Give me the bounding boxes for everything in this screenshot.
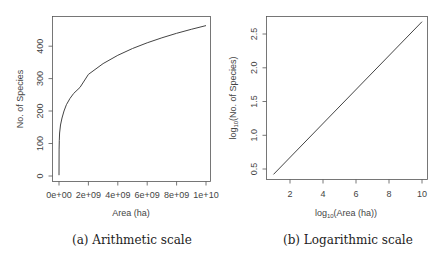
- x-tick-labels: 0e+00 2e+09 4e+09 6e+09 8e+09 1e+10: [46, 190, 218, 200]
- figure: 0 100 200 300 400 0e+00 2e+09 4e+09 6e+0…: [0, 0, 442, 263]
- x-tick-label: 10: [417, 189, 427, 199]
- y-tick-label: 300: [35, 71, 45, 86]
- y-axis-label: log10(No. of Species): [228, 56, 239, 139]
- x-axis: [59, 182, 206, 186]
- caption-arithmetic: (a) Arithmetic scale: [72, 233, 192, 247]
- y-tick-label: 2.5: [249, 28, 259, 41]
- y-tick-label: 2.0: [249, 62, 259, 75]
- x-tick-label: 8e+09: [164, 190, 189, 200]
- x-tick-label: 6: [353, 189, 358, 199]
- x-tick-label: 1e+10: [193, 190, 218, 200]
- y-tick-label: 0.5: [249, 163, 259, 176]
- y-tick-labels: 0.5 1.0 1.5 2.0 2.5: [249, 28, 259, 176]
- logarithmic-chart: 0.5 1.0 1.5 2.0 2.5 2 4 6 8 10 log10(Are…: [228, 17, 428, 220]
- data-line: [59, 26, 206, 176]
- x-tick-label: 2e+09: [76, 190, 101, 200]
- x-tick-labels: 2 4 6 8 10: [287, 189, 427, 199]
- x-tick-label: 4: [320, 189, 325, 199]
- x-axis-label: log10(Area (ha)): [315, 208, 377, 219]
- y-tick-label: 400: [35, 39, 45, 54]
- y-tick-labels: 0 100 200 300 400: [35, 39, 45, 179]
- y-axis: [49, 46, 53, 176]
- x-tick-label: 0e+00: [46, 190, 71, 200]
- x-tick-label: 4e+09: [105, 190, 130, 200]
- x-tick-label: 6e+09: [135, 190, 160, 200]
- y-axis-label: No. of Species: [15, 69, 25, 128]
- x-axis: [290, 180, 422, 184]
- y-tick-label: 1.5: [249, 95, 259, 108]
- caption-logarithmic: (b) Logarithmic scale: [283, 233, 413, 247]
- y-tick-label: 200: [35, 103, 45, 118]
- arithmetic-chart: 0 100 200 300 400 0e+00 2e+09 4e+09 6e+0…: [15, 17, 219, 219]
- x-tick-label: 8: [386, 189, 391, 199]
- y-tick-label: 0: [35, 173, 45, 178]
- x-axis-label: Area (ha): [112, 208, 150, 218]
- y-tick-label: 100: [35, 136, 45, 151]
- x-tick-label: 2: [287, 189, 292, 199]
- plot-frame: [53, 17, 211, 182]
- y-axis: [263, 34, 267, 169]
- data-line: [274, 22, 423, 175]
- y-tick-label: 1.0: [249, 129, 259, 142]
